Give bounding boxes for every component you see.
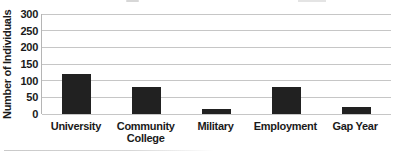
gridline-50: [42, 97, 391, 98]
bar-military: [202, 109, 231, 114]
x-axis-label-gap-year: Gap Year: [320, 121, 390, 133]
y-tick-label-50: 50: [14, 91, 38, 103]
x-axis-label-military: Military: [181, 121, 251, 133]
y-tick-label-300: 300: [14, 8, 38, 20]
scan-artifact-top-center: [126, 0, 139, 2]
bar-employment: [272, 87, 301, 114]
gridline-100: [42, 80, 391, 81]
gridline-250: [42, 30, 391, 31]
plot-area: [41, 14, 391, 114]
bar-community-college: [132, 87, 161, 114]
x-axis-label-community-college: Community College: [111, 121, 181, 144]
x-axis-label-employment: Employment: [250, 121, 320, 133]
y-tick-label-150: 150: [14, 58, 38, 70]
y-tick-label-200: 200: [14, 41, 38, 53]
gridline-150: [42, 64, 391, 65]
y-axis-title: Number of Individuals: [0, 8, 14, 120]
gridline-200: [42, 47, 391, 48]
scan-artifact-top-right: [298, 0, 326, 2]
gridline-300: [42, 14, 391, 15]
bar-chart-figure: Number of Individuals 050100150200250300…: [0, 0, 393, 152]
x-axis-label-university: University: [41, 121, 111, 133]
y-tick-label-100: 100: [14, 75, 38, 87]
y-tick-label-250: 250: [14, 25, 38, 37]
scan-artifact-bottom-line: [4, 150, 214, 152]
bar-university: [62, 74, 91, 114]
y-tick-label-0: 0: [14, 108, 38, 120]
bar-gap-year: [342, 107, 371, 114]
